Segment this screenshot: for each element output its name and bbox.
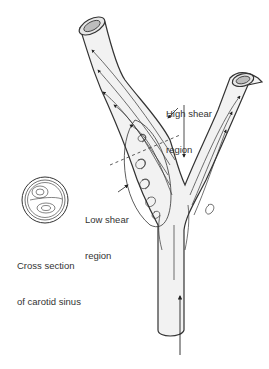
low-shear-label-line1: Low shear bbox=[85, 214, 129, 226]
high-shear-label-line2: region bbox=[166, 144, 212, 156]
cross-section-label-line2: of carotid sinus bbox=[17, 296, 81, 308]
low-shear-label-line2: region bbox=[85, 250, 129, 262]
high-shear-label-line1: High shear bbox=[166, 108, 212, 120]
low-shear-label: Low shear region bbox=[85, 190, 129, 274]
vessel-body bbox=[80, 22, 262, 336]
cross-section-label-line1: Cross section bbox=[17, 260, 81, 272]
cross-section-label: Cross section of carotid sinus bbox=[17, 236, 81, 320]
high-shear-label: High shear region bbox=[166, 84, 212, 168]
cross-section-inset bbox=[22, 177, 68, 223]
